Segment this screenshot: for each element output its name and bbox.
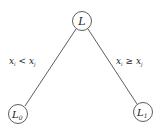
right-edge-condition: xi ≥ xj [116, 56, 143, 68]
edge-left [25, 29, 76, 106]
left-edge-condition: xi < xj [9, 56, 36, 68]
decision-tree-diagram: L L0 L1 xi < xj xi ≥ xj [0, 0, 165, 132]
edge-right [88, 29, 137, 104]
root-label: L [77, 15, 85, 28]
